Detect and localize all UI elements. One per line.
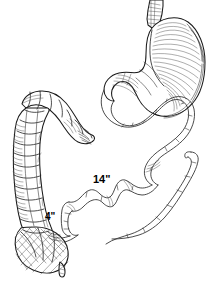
bypassed-limb-group bbox=[106, 152, 198, 244]
short-segment-inner bbox=[68, 211, 78, 235]
small-bowel-loop-upper bbox=[69, 180, 152, 202]
bypassed-limb-blind-end bbox=[185, 152, 191, 158]
anatomy-drawing-svg bbox=[0, 0, 215, 284]
small-bowel-shading bbox=[67, 160, 160, 212]
small-bowel-length-label: 14" bbox=[93, 174, 110, 185]
bypassed-limb-creases bbox=[127, 162, 196, 238]
bypassed-limb-outer bbox=[112, 152, 198, 239]
short-segment-length-label: 4" bbox=[45, 212, 55, 222]
small-bowel-wall-creases bbox=[64, 99, 192, 229]
short-segment-outer bbox=[61, 202, 70, 236]
anatomical-figure: 14" 4" bbox=[0, 0, 215, 284]
colon-group bbox=[13, 91, 94, 277]
stomach-group bbox=[104, 0, 205, 118]
